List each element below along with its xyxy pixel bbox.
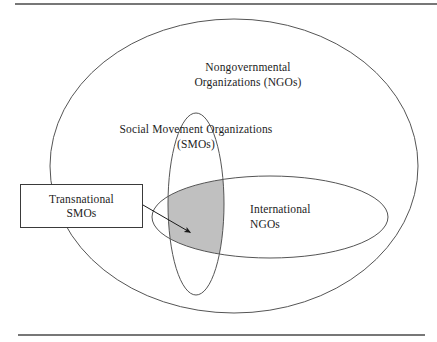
venn-diagram-canvas <box>0 0 437 342</box>
label-social-movement-organizations: Social Movement Organizations (SMOs) <box>88 122 304 151</box>
label-international-ngos: International NGOs <box>250 202 360 231</box>
venn-diagram-figure: Nongovernmental Organizations (NGOs) Soc… <box>0 0 437 342</box>
callout-box-transnational-smos: Transnational SMOs <box>20 184 143 228</box>
label-nongovernmental-organizations: Nongovernmental Organizations (NGOs) <box>168 60 328 89</box>
callout-box-label: Transnational SMOs <box>49 192 114 221</box>
